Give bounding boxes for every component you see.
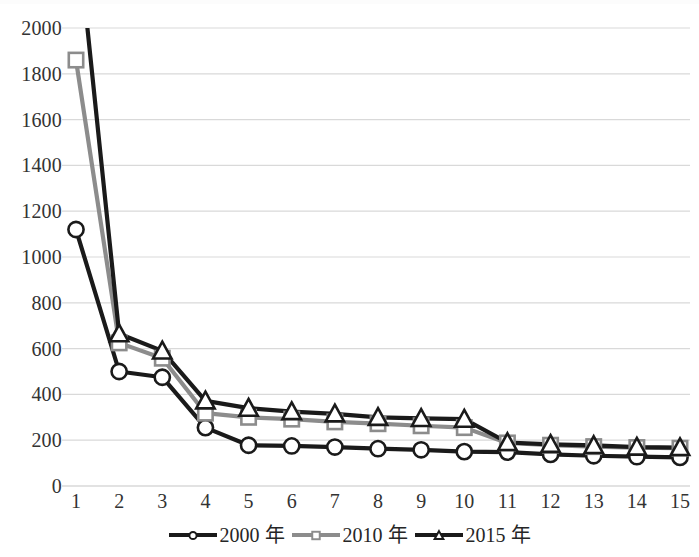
series-markers-square xyxy=(69,53,687,456)
legend-item[interactable]: 2010 年 xyxy=(292,524,408,546)
x-tick-label: 12 xyxy=(531,489,571,513)
square-marker xyxy=(69,53,83,67)
legend-swatch xyxy=(415,527,463,543)
x-tick-label: 5 xyxy=(229,489,269,513)
y-tick-label: 600 xyxy=(0,339,62,359)
x-tick-label: 7 xyxy=(315,489,355,513)
scan-edge-top xyxy=(0,0,699,4)
x-tick-label: 10 xyxy=(444,489,484,513)
series-line xyxy=(76,60,680,448)
circle-marker xyxy=(327,439,342,454)
line-chart-figure: 2000180016001400120010008006004002000 12… xyxy=(0,0,699,557)
x-tick-label: 1 xyxy=(56,489,96,513)
series-square xyxy=(76,60,680,448)
y-tick-label: 200 xyxy=(0,430,62,450)
legend-item[interactable]: 2000 年 xyxy=(169,524,285,546)
triangle-marker xyxy=(432,529,446,542)
circle-marker xyxy=(457,444,472,459)
y-tick-label: 1800 xyxy=(0,64,62,84)
chart-svg xyxy=(68,28,688,486)
y-axis-tick-labels: 2000180016001400120010008006004002000 xyxy=(0,28,62,486)
circle-marker xyxy=(370,441,385,456)
plot-area xyxy=(68,28,688,486)
x-tick-label: 6 xyxy=(272,489,312,513)
y-tick-label: 1600 xyxy=(0,110,62,130)
legend-swatch xyxy=(292,527,340,543)
square-marker xyxy=(312,532,319,539)
series-layer xyxy=(68,0,689,465)
circle-marker xyxy=(414,442,429,457)
legend-label: 2010 年 xyxy=(341,524,408,546)
circle-marker xyxy=(112,364,127,379)
y-tick-label: 1400 xyxy=(0,155,62,175)
circle-marker xyxy=(155,370,170,385)
x-tick-label: 8 xyxy=(358,489,398,513)
y-tick-label: 800 xyxy=(0,293,62,313)
x-tick-label: 15 xyxy=(660,489,699,513)
y-tick-label: 1000 xyxy=(0,247,62,267)
x-tick-label: 3 xyxy=(142,489,182,513)
square-marker xyxy=(309,529,323,542)
circle-marker xyxy=(198,420,213,435)
x-tick-label: 13 xyxy=(574,489,614,513)
y-tick-label: 0 xyxy=(0,476,62,496)
y-tick-label: 400 xyxy=(0,384,62,404)
x-tick-label: 2 xyxy=(99,489,139,513)
x-axis-tick-labels: 123456789101112131415 xyxy=(68,489,688,515)
triangle-marker xyxy=(434,531,443,539)
circle-marker xyxy=(186,529,200,542)
triangle-marker xyxy=(110,325,128,342)
circle-marker xyxy=(284,438,299,453)
x-tick-label: 9 xyxy=(401,489,441,513)
legend-label: 2015 年 xyxy=(464,524,531,546)
circle-marker xyxy=(241,438,256,453)
x-tick-label: 14 xyxy=(617,489,657,513)
x-tick-label: 11 xyxy=(487,489,527,513)
circle-marker xyxy=(189,532,196,539)
circle-marker xyxy=(68,222,83,237)
x-tick-label: 4 xyxy=(185,489,225,513)
legend-swatch xyxy=(169,527,217,543)
legend-label: 2000 年 xyxy=(218,524,285,546)
y-tick-label: 1200 xyxy=(0,201,62,221)
y-tick-label: 2000 xyxy=(0,18,62,38)
chart-legend: 2000 年2010 年2015 年 xyxy=(0,518,699,552)
legend-item[interactable]: 2015 年 xyxy=(415,524,531,546)
